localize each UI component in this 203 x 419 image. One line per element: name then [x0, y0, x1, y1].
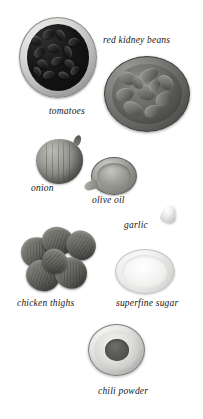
chili-bowl-ring	[94, 330, 139, 370]
label-superfine-sugar: superfine sugar	[116, 299, 178, 309]
garlic-clove-icon	[159, 204, 177, 225]
label-garlic: garlic	[124, 221, 148, 231]
ingredients-photo-board: red kidney beans tomatoes onion olive oi…	[0, 0, 203, 419]
chili-powder-fill	[105, 339, 129, 361]
bowl-of-sugar-icon	[115, 249, 175, 294]
label-chicken-thighs: chicken thighs	[17, 299, 74, 309]
oil-dish-spout-icon	[83, 179, 99, 192]
tomatoes-fill	[112, 64, 183, 125]
onion-stem-icon	[72, 134, 83, 147]
bowl-of-chili-powder-icon	[88, 324, 145, 376]
bowl-of-beans-icon	[19, 17, 97, 98]
chicken-thighs-icon	[18, 226, 98, 293]
label-tomatoes: tomatoes	[49, 107, 85, 117]
label-onion: onion	[31, 184, 54, 194]
beans-fill	[27, 24, 89, 90]
bowl-of-tomatoes-icon	[104, 56, 190, 132]
sugar-fill	[122, 255, 168, 289]
label-chili-powder: chili powder	[98, 387, 148, 397]
oil-liquid	[97, 163, 130, 190]
label-olive-oil: olive oil	[92, 196, 125, 206]
label-red-kidney-beans: red kidney beans	[103, 36, 170, 46]
oil-dish-icon	[91, 157, 137, 195]
onion-icon	[36, 139, 83, 184]
